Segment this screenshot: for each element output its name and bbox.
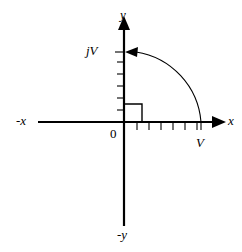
y-axis-ticks	[115, 52, 123, 110]
rotation-arc	[136, 52, 201, 122]
imaginary-point-label: jV	[86, 44, 98, 57]
arc-arrowhead-icon	[125, 47, 138, 57]
right-angle-marker	[124, 104, 142, 122]
origin-label: 0	[110, 127, 117, 140]
x-axis-ticks	[137, 123, 197, 130]
y-axis-label: y	[120, 8, 126, 21]
negative-y-axis-label: -y	[117, 228, 127, 241]
negative-x-axis-label: -x	[16, 114, 26, 127]
diagram-canvas	[0, 0, 242, 252]
real-point-label: V	[196, 136, 204, 149]
x-axis-arrowhead-icon	[212, 116, 226, 128]
x-axis-label: x	[228, 114, 234, 127]
complex-plane-figure: y -y x -x jV V 0	[0, 0, 242, 252]
